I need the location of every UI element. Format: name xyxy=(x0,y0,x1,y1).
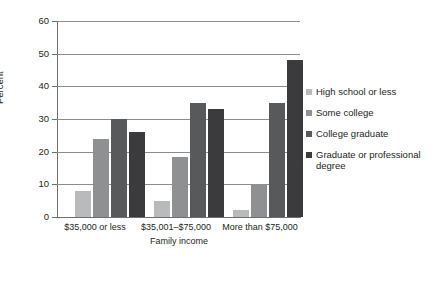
legend-swatch-icon-2 xyxy=(306,131,312,137)
plot-area xyxy=(57,21,300,217)
legend-label-2: College graduate xyxy=(316,128,388,139)
legend-swatch-icon-1 xyxy=(306,110,312,116)
y-axis-title: Percent xyxy=(0,71,5,104)
bar-group-1 xyxy=(154,21,226,217)
bar-2-1 xyxy=(251,184,267,217)
y-tick-mark-30 xyxy=(52,119,57,120)
bar-0-2 xyxy=(111,119,127,217)
bar-2-2 xyxy=(269,103,285,217)
legend-label-3: Graduate or professional degree xyxy=(316,149,437,171)
y-tick-mark-20 xyxy=(52,152,57,153)
y-tick-label-40: 40 xyxy=(25,81,49,91)
chart-root: Percent 60 50 40 30 20 10 0 $35,000 or l… xyxy=(0,0,437,286)
y-axis-tick-labels: 60 50 40 30 20 10 0 xyxy=(25,21,51,217)
bar-0-0 xyxy=(75,191,91,217)
legend-item-0[interactable]: High school or less xyxy=(306,86,437,97)
x-axis-title: Family income xyxy=(57,236,301,246)
x-axis-line xyxy=(57,217,301,218)
x-tick-label-2: More than $75,000 xyxy=(218,222,302,233)
bar-0-3 xyxy=(129,132,145,217)
legend-item-2[interactable]: College graduate xyxy=(306,128,437,139)
legend-swatch-icon-3 xyxy=(306,152,312,158)
y-tick-mark-40 xyxy=(52,86,57,87)
bar-2-0 xyxy=(233,210,249,217)
y-tick-label-0: 0 xyxy=(25,212,49,222)
chart-legend: High school or lessSome collegeCollege g… xyxy=(306,86,437,181)
y-tick-mark-10 xyxy=(52,184,57,185)
bar-2-3 xyxy=(287,60,303,217)
x-tick-label-1: $35,001–$75,000 xyxy=(135,222,217,233)
y-tick-mark-50 xyxy=(52,54,57,55)
y-tick-label-10: 10 xyxy=(25,179,49,189)
legend-item-1[interactable]: Some college xyxy=(306,107,437,118)
x-tick-label-0: $35,000 or less xyxy=(57,222,133,233)
legend-label-0: High school or less xyxy=(316,86,396,97)
y-tick-label-60: 60 xyxy=(25,16,49,26)
y-tick-mark-0 xyxy=(52,217,57,218)
legend-swatch-icon-0 xyxy=(306,89,312,95)
bar-group-2 xyxy=(233,21,305,217)
bar-1-0 xyxy=(154,201,170,217)
bar-group-0 xyxy=(75,21,147,217)
y-tick-label-30: 30 xyxy=(25,114,49,124)
bar-1-3 xyxy=(208,109,224,217)
bar-1-2 xyxy=(190,103,206,217)
y-tick-label-20: 20 xyxy=(25,147,49,157)
bar-0-1 xyxy=(93,139,109,217)
bar-1-1 xyxy=(172,157,188,217)
y-tick-label-50: 50 xyxy=(25,49,49,59)
legend-label-1: Some college xyxy=(316,107,374,118)
legend-item-3[interactable]: Graduate or professional degree xyxy=(306,149,437,171)
y-tick-mark-60 xyxy=(52,21,57,22)
